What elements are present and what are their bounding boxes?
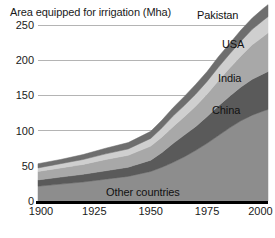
y-tick-label: 250 — [16, 19, 34, 31]
x-tick-label: 1975 — [195, 205, 219, 217]
x-tick-label: 1950 — [138, 205, 162, 217]
chart-container: Area equipped for irrigation (Mha) 05010… — [0, 0, 275, 238]
y-tick-label: 50 — [22, 160, 34, 172]
x-tick-label: 1925 — [82, 205, 106, 217]
series-label-china: China — [212, 104, 240, 116]
y-tick-label: 100 — [16, 125, 34, 137]
y-tick-label: 150 — [16, 89, 34, 101]
series-label-other-countries: Other countries — [106, 186, 180, 198]
series-label-usa: USA — [222, 38, 244, 50]
series-label-india: India — [218, 72, 241, 84]
series-label-pakistan: Pakistan — [197, 9, 238, 21]
stacked-area-plot — [0, 0, 275, 238]
y-tick-label: 200 — [16, 54, 34, 66]
x-tick-label: 2000 — [248, 205, 272, 217]
x-tick-label: 1900 — [29, 205, 53, 217]
